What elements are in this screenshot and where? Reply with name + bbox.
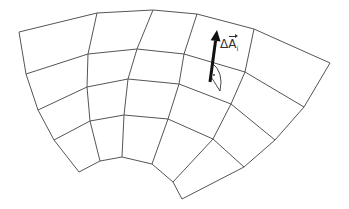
delta-symbol: Δ xyxy=(220,37,228,51)
arrowhead-icon xyxy=(211,30,221,42)
surface-grid xyxy=(19,10,330,199)
grid-column-line-5 xyxy=(182,63,330,199)
grid-row-line-2 xyxy=(38,79,275,140)
grid-column-line-0 xyxy=(19,32,79,172)
grid-row-line-4 xyxy=(79,157,182,199)
grid-row-line-1 xyxy=(26,49,304,107)
area-element-point xyxy=(213,74,215,76)
grid-row-line-3 xyxy=(54,115,244,167)
grid-column-line-3 xyxy=(152,14,197,164)
grid-row-line-0 xyxy=(19,10,330,63)
surface-diagram xyxy=(0,0,349,209)
subscript-i: i xyxy=(236,45,238,53)
grid-column-line-2 xyxy=(122,10,153,157)
delta-a-vector-label: ΔAi xyxy=(220,38,238,53)
vector-a-symbol: A xyxy=(228,38,236,50)
